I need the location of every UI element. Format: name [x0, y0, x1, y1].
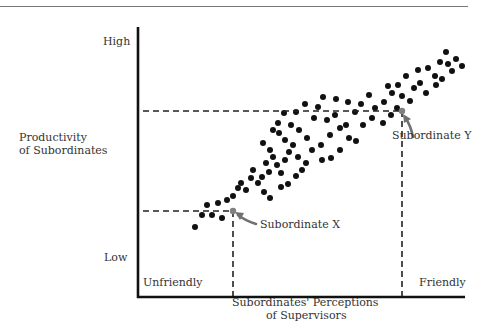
data-point [432, 73, 438, 79]
data-point [423, 90, 429, 96]
data-point [332, 112, 338, 118]
data-point [204, 202, 210, 208]
subordinate-x-label: Subordinate X [260, 218, 340, 231]
data-point [411, 85, 417, 91]
data-point [403, 73, 409, 79]
data-point [303, 160, 309, 166]
data-point [328, 155, 334, 161]
data-point [248, 175, 254, 181]
subordinate-y-point [399, 108, 405, 114]
data-point [417, 80, 423, 86]
subordinate-x-point [230, 208, 236, 214]
data-point [320, 94, 326, 100]
data-point [274, 162, 280, 168]
data-point [337, 125, 343, 131]
data-point [360, 122, 366, 128]
data-point [243, 187, 249, 193]
data-point [270, 154, 276, 160]
data-point [290, 142, 296, 148]
data-point [224, 197, 230, 203]
data-point [295, 154, 301, 160]
data-point [318, 142, 324, 148]
data-point [345, 99, 351, 105]
data-point [282, 157, 288, 163]
data-point [333, 96, 339, 102]
subordinate-y-label: Subordinate Y [392, 129, 471, 142]
data-point [385, 83, 391, 89]
data-point [270, 127, 276, 133]
data-point [309, 147, 315, 153]
data-point [259, 174, 265, 180]
data-point [443, 49, 449, 55]
data-point [285, 181, 291, 187]
data-point [286, 149, 292, 155]
data-point [199, 212, 205, 218]
data-point [425, 65, 431, 71]
y-axis-label-line2: of Subordinates [19, 144, 108, 157]
data-point [311, 115, 317, 121]
data-point [304, 135, 310, 141]
data-point [439, 76, 445, 82]
x-tick-high: Friendly [419, 276, 466, 289]
data-point [250, 167, 256, 173]
x-axis-label-line1: Subordinates' Perceptions [232, 296, 379, 309]
data-point [275, 120, 281, 126]
data-point [260, 140, 266, 146]
data-point [343, 122, 349, 128]
data-point [215, 200, 221, 206]
data-point [255, 180, 261, 186]
y-tick-high: High [103, 35, 130, 48]
data-point [459, 63, 465, 69]
data-point [327, 132, 333, 138]
data-point [278, 184, 284, 190]
data-point [302, 101, 308, 107]
data-point [324, 117, 330, 123]
data-point [395, 82, 401, 88]
data-point [293, 173, 299, 179]
data-point [319, 157, 325, 163]
data-point [278, 170, 284, 176]
data-point [238, 180, 244, 186]
data-point [453, 56, 459, 62]
data-point [445, 61, 451, 67]
data-point [369, 115, 375, 121]
data-point [235, 185, 241, 191]
data-point [380, 120, 386, 126]
data-point [415, 67, 421, 73]
data-point [276, 130, 282, 136]
data-point [192, 224, 198, 230]
data-point [449, 68, 455, 74]
data-point [366, 92, 372, 98]
data-point [288, 122, 294, 128]
data-point [282, 137, 288, 143]
data-point [263, 160, 269, 166]
data-point [266, 169, 272, 175]
data-point [299, 167, 305, 173]
x-axis-label-line2: of Supervisors [266, 309, 347, 322]
data-point [353, 138, 359, 144]
data-point [293, 109, 299, 115]
data-point [209, 212, 215, 218]
y-axis-label-line1: Productivity [19, 131, 87, 144]
data-point [337, 147, 343, 153]
data-point [261, 189, 267, 195]
data-point [267, 195, 273, 201]
data-point [296, 127, 302, 133]
data-point [372, 105, 378, 111]
data-point [315, 104, 321, 110]
data-point [267, 147, 273, 153]
y-tick-low: Low [104, 251, 127, 264]
data-point [399, 93, 405, 99]
data-point [388, 112, 394, 118]
data-point [219, 215, 225, 221]
data-point [433, 82, 439, 88]
data-point [230, 193, 236, 199]
data-point [407, 98, 413, 104]
data-point [352, 109, 358, 115]
data-point [346, 135, 352, 141]
data-point [389, 90, 395, 96]
data-point [381, 99, 387, 105]
data-point [437, 59, 443, 65]
x-tick-low: Unfriendly [143, 276, 203, 289]
scatter-plot [0, 0, 486, 335]
